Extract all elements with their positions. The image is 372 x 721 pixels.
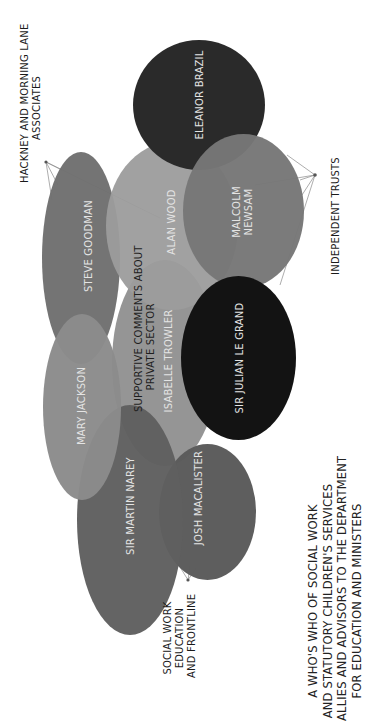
- label-sir-julian-le-grand: SIR JULIAN LE GRAND: [234, 298, 246, 418]
- label-malcolm-newsam: MALCOLM NEWSAM: [231, 162, 255, 262]
- hackney-line-1: HACKNEY AND MORNING LANE: [19, 33, 31, 183]
- title-line-1: A WHO'S WHO OF SOCIAL WORK: [306, 481, 321, 721]
- label-sir-martin-narey: SIR MARTIN NAREY: [125, 451, 137, 561]
- label-malcolm-line-1: MALCOLM: [231, 162, 243, 262]
- label-mary-jackson: MARY JACKSON: [76, 356, 88, 456]
- title-line-3: ALLIES AND ADVISORS TO THE DEPARTMENT: [335, 481, 350, 721]
- overlay-line-1: SUPPORTIVE COMMENTS ABOUT: [133, 282, 145, 412]
- label-social-work-education: SOCIAL WORK EDUCATION AND FRONTLINE: [162, 598, 198, 678]
- title-line-2: AND STATUTORY CHILDREN'S SERVICES: [321, 481, 336, 721]
- label-malcolm-line-2: NEWSAM: [243, 162, 255, 262]
- label-isabelle-trowler: ISABELLE TROWLER: [163, 306, 175, 416]
- label-eleanor-brazil: ELEANOR BRAZIL: [194, 45, 206, 145]
- social-work-line-3: AND FRONTLINE: [186, 598, 198, 678]
- title-line-4: FOR EDUCATION AND MINISTERS: [350, 481, 365, 721]
- label-josh-macalister: JOSH MACALISTER: [193, 443, 205, 553]
- label-hackney-associates: HACKNEY AND MORNING LANE ASSOCIATES: [19, 33, 43, 183]
- social-work-line-2: EDUCATION: [174, 598, 186, 678]
- label-independent-trusts: INDEPENDENT TRUSTS: [330, 156, 342, 276]
- label-steve-goodman: STEVE GOODMAN: [83, 196, 95, 296]
- social-work-line-1: SOCIAL WORK: [162, 598, 174, 678]
- diagram-title: A WHO'S WHO OF SOCIAL WORK AND STATUTORY…: [306, 481, 364, 721]
- overlay-line-2: PRIVATE SECTOR: [145, 282, 157, 412]
- label-alan-wood: ALAN WOOD: [166, 172, 178, 272]
- label-supportive-comments: SUPPORTIVE COMMENTS ABOUT PRIVATE SECTOR: [133, 282, 157, 412]
- hackney-line-2: ASSOCIATES: [31, 33, 43, 183]
